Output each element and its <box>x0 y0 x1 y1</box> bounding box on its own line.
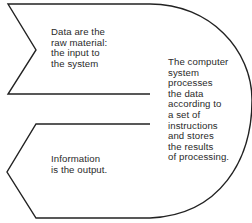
output-description: Information is the output. <box>51 154 107 175</box>
process-description: The computer system processes the data a… <box>168 57 229 163</box>
input-description: Data are the raw material: the input to … <box>51 27 107 69</box>
